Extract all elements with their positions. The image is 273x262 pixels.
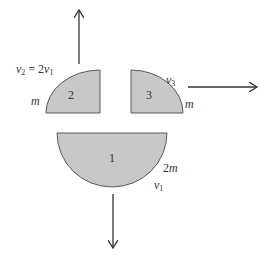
relation-text: = 2 (28, 62, 44, 76)
fragment-3-velocity-label: v3 (166, 74, 175, 88)
fragment-3-mass-label: m (185, 98, 194, 110)
fragment-1-mass-label: 2m (163, 162, 178, 174)
fragment-1-velocity-label: v1 (154, 179, 163, 193)
v2-subscript: 2 (21, 68, 25, 77)
v1-subscript: 1 (49, 68, 53, 77)
fragment-2-mass-label: m (31, 95, 40, 107)
fragment-2-number: 2 (68, 89, 74, 101)
v3-subscript: 3 (171, 79, 175, 88)
mass-2m-text: 2m (163, 161, 178, 175)
velocity-relation-label: v2 = 2v1 (16, 63, 53, 77)
fragment-1-number: 1 (109, 152, 115, 164)
v1-subscript: 1 (159, 184, 163, 193)
fragment-3-number: 3 (146, 89, 152, 101)
momentum-diagram (0, 0, 273, 262)
